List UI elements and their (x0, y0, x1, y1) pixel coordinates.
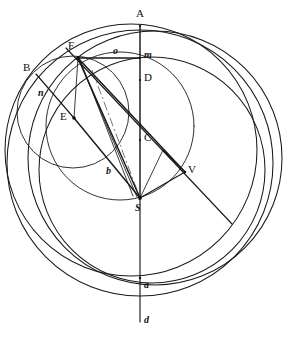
right-large-circle (28, 31, 282, 285)
inner-upper-circle (46, 52, 194, 200)
point-a (139, 277, 141, 279)
point-label-C: C (144, 132, 151, 143)
point-E (72, 116, 76, 120)
point-F (76, 56, 80, 60)
point-C (139, 139, 141, 141)
point-A (139, 25, 141, 27)
point-label-a: a (144, 280, 149, 290)
point-label-m: m (144, 50, 152, 60)
point-label-n: n (38, 88, 44, 98)
point-D (139, 79, 141, 81)
dashed-lines-group (92, 70, 140, 198)
point-V (184, 171, 186, 173)
line-segments-group (36, 26, 232, 322)
point-label-d: d (144, 315, 149, 325)
point-label-b: b (106, 166, 111, 176)
point-m (139, 57, 141, 59)
small-left-circle (17, 56, 129, 168)
square-S-V-leg1 (140, 172, 185, 198)
circles-group (5, 24, 282, 296)
upper-large-circle (5, 24, 257, 276)
point-label-E: E (60, 111, 67, 122)
point-label-F: F (68, 40, 74, 51)
point-label-S: S (135, 203, 141, 213)
point-label-A: A (136, 8, 144, 19)
point-label-V: V (188, 164, 196, 175)
chord-F-S-second (78, 58, 137, 197)
point-label-D: D (144, 72, 152, 83)
mid-right-circle (39, 57, 265, 283)
vertex-points-group (72, 25, 186, 279)
chord-F-V (78, 58, 185, 172)
point-label-B: B (23, 62, 30, 73)
square-S-V-leg2 (163, 150, 185, 172)
point-S (138, 196, 142, 200)
dash-chord-F-a (92, 70, 140, 198)
geometry-figure: AFomBDnECbVSad (0, 0, 298, 346)
point-label-o: o (113, 46, 118, 56)
